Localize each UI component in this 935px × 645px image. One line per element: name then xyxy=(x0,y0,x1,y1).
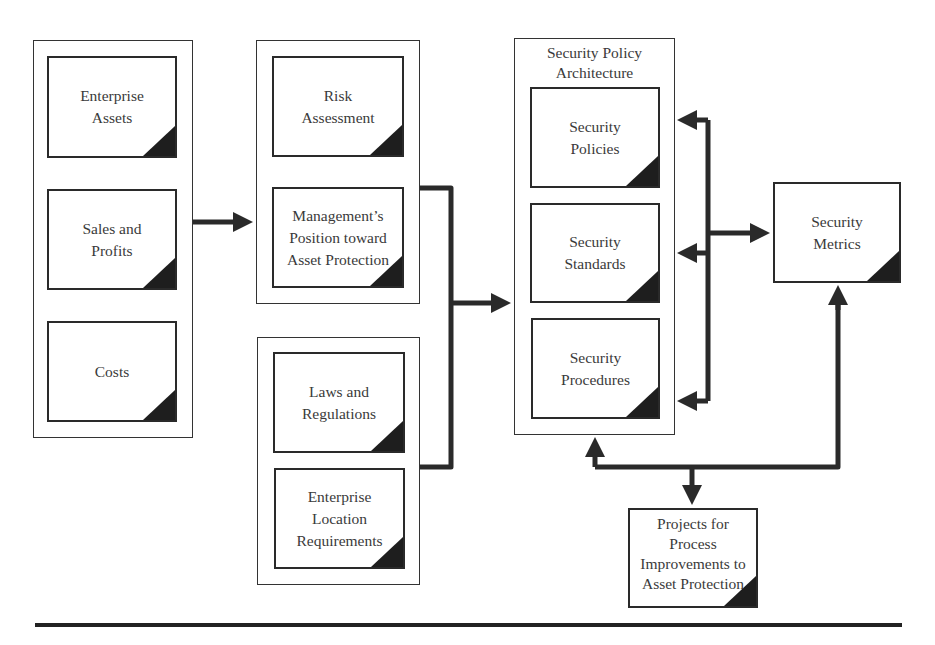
security-procedures-label: Security Procedures xyxy=(561,347,630,391)
security-standards-label: Security Standards xyxy=(564,231,625,275)
bottom-rule xyxy=(35,623,902,627)
corner-marker-icon xyxy=(370,125,402,155)
management-position-label: Management’s Position toward Asset Prote… xyxy=(287,205,389,271)
sales-profits-label: Sales and Profits xyxy=(83,218,142,262)
corner-marker-icon xyxy=(143,390,175,420)
management-position-node[interactable]: Management’s Position toward Asset Prote… xyxy=(272,187,404,288)
corner-marker-icon xyxy=(867,251,899,281)
corner-marker-icon xyxy=(626,387,658,417)
projects-label: Projects for Process Improvements to Ass… xyxy=(640,514,745,594)
location-requirements-label: Enterprise Location Requirements xyxy=(296,486,382,552)
security-policies-label: Security Policies xyxy=(569,116,621,160)
sales-profits-node[interactable]: Sales and Profits xyxy=(47,189,177,290)
enterprise-assets-node[interactable]: Enterprise Assets xyxy=(47,56,177,158)
security-metrics-label: Security Metrics xyxy=(811,211,863,255)
enterprise-assets-label: Enterprise Assets xyxy=(80,85,144,129)
architecture-title: Security Policy Architecture xyxy=(515,43,674,83)
risk-assessment-node[interactable]: Risk Assessment xyxy=(272,56,404,157)
security-standards-node[interactable]: Security Standards xyxy=(530,203,660,303)
location-requirements-node[interactable]: Enterprise Location Requirements xyxy=(274,468,405,569)
risk-assessment-label: Risk Assessment xyxy=(301,85,374,129)
security-policies-node[interactable]: Security Policies xyxy=(530,87,660,188)
corner-marker-icon xyxy=(143,126,175,156)
costs-node[interactable]: Costs xyxy=(47,321,177,422)
corner-marker-icon xyxy=(626,156,658,186)
laws-regulations-node[interactable]: Laws and Regulations xyxy=(273,352,405,453)
corner-marker-icon xyxy=(626,271,658,301)
security-procedures-node[interactable]: Security Procedures xyxy=(531,318,660,419)
laws-regulations-label: Laws and Regulations xyxy=(302,381,376,425)
bracket-management-legal xyxy=(420,188,451,467)
corner-marker-icon xyxy=(371,421,403,451)
corner-marker-icon xyxy=(143,258,175,288)
security-metrics-node[interactable]: Security Metrics xyxy=(773,182,901,283)
costs-label: Costs xyxy=(95,361,129,383)
projects-node[interactable]: Projects for Process Improvements to Ass… xyxy=(628,508,758,608)
